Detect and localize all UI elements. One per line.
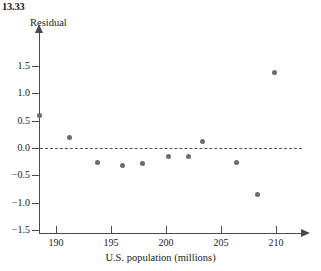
x-axis-arrow-icon — [301, 229, 310, 237]
x-axis-tick — [276, 226, 277, 234]
y-axis-tick-label-wrap: 1.5 — [0, 61, 30, 71]
y-axis-tick — [32, 66, 40, 67]
x-axis-tick-label: 195 — [91, 237, 131, 248]
x-axis-tick — [111, 226, 112, 234]
x-axis-tick — [166, 226, 167, 234]
data-point — [140, 161, 145, 166]
y-axis-tick-label: −1.0 — [0, 198, 30, 208]
data-point — [37, 113, 42, 118]
y-axis-tick — [32, 230, 40, 231]
y-axis-tick — [32, 203, 40, 204]
x-axis-tick — [56, 226, 57, 234]
y-axis-line — [39, 32, 40, 234]
x-axis-title: U.S. population (millions) — [0, 252, 321, 264]
x-axis-line — [39, 233, 303, 234]
y-axis-tick — [32, 121, 40, 122]
y-axis-tick-label-wrap: 0.5 — [0, 116, 30, 126]
x-axis-tick-label: 210 — [256, 237, 296, 248]
data-point — [95, 160, 100, 165]
y-axis-tick-label-wrap: −0.5 — [0, 170, 30, 180]
y-axis-tick — [32, 148, 40, 149]
y-axis-tick-label: −1.5 — [0, 225, 30, 235]
x-axis-tick — [221, 226, 222, 234]
data-point — [272, 70, 277, 75]
y-axis-tick-label-wrap: −1.0 — [0, 198, 30, 208]
y-axis-tick-label-wrap: −1.5 — [0, 225, 30, 235]
data-point — [120, 163, 125, 168]
plot-area: 1.51.00.50.0−0.5−1.0−1.5 190195200205210 — [0, 0, 321, 271]
residual-plot-figure: 13.33 Residual 1.51.00.50.0−0.5−1.0−1.5 … — [0, 0, 321, 271]
y-axis-arrow-icon — [35, 24, 43, 33]
data-point — [67, 135, 72, 140]
x-axis-tick-label: 205 — [201, 237, 241, 248]
y-axis-tick-label: 0.5 — [0, 116, 30, 126]
y-axis-tick — [32, 93, 40, 94]
data-point — [186, 154, 191, 159]
x-axis-tick-label: 190 — [36, 237, 76, 248]
y-axis-tick-label: −0.5 — [0, 170, 30, 180]
y-axis-tick-label: 1.0 — [0, 88, 30, 98]
y-axis-tick — [32, 175, 40, 176]
y-axis-tick-label: 1.5 — [0, 61, 30, 71]
data-point — [166, 154, 171, 159]
data-point — [200, 139, 205, 144]
y-axis-tick-label: 0.0 — [0, 143, 30, 153]
data-point — [234, 160, 239, 165]
x-axis-tick-label: 200 — [146, 237, 186, 248]
zero-reference-line — [40, 148, 302, 149]
y-axis-tick-label-wrap: 0.0 — [0, 143, 30, 153]
data-point — [255, 192, 260, 197]
y-axis-tick-label-wrap: 1.0 — [0, 88, 30, 98]
